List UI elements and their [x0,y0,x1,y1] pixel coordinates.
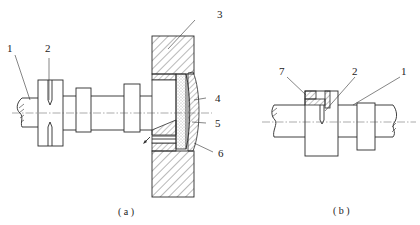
panel-a: 1 2 3 4 5 6 ( a ) [7,8,224,218]
callout-5-a: 5 [215,117,221,129]
shaft-1-a [17,98,38,127]
callout-7-b: 7 [279,65,285,77]
callout-1-a: 1 [7,42,13,54]
callout-6-a: 6 [218,147,224,159]
panel-b: 7 2 1 ( b ) [262,65,416,217]
caption-b: ( b ) [333,205,350,217]
callout-3-a: 3 [217,8,223,20]
caption-a: ( a ) [118,206,134,218]
callout-2-a: 2 [45,42,51,54]
shaft-body-a [63,84,152,132]
abrasive-disk-5 [176,74,186,149]
callout-2-b: 2 [352,65,358,77]
collar-7-2-b [305,91,338,156]
callout-1-b: 1 [401,65,407,77]
technical-drawing: 1 2 3 4 5 6 ( a ) [0,0,420,225]
callout-4-a: 4 [215,92,221,104]
pad-4-holder-6 [186,72,199,151]
